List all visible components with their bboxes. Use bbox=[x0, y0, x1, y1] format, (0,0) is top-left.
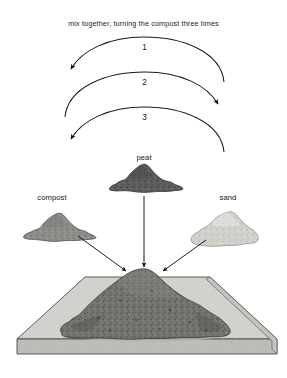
compost-label: compost bbox=[37, 193, 67, 202]
turning-arc-3-number: 3 bbox=[142, 113, 147, 122]
peat-pile: peat bbox=[109, 153, 183, 192]
peat-label: peat bbox=[136, 153, 152, 162]
diagram-canvas: mix together, turning the compost three … bbox=[0, 0, 287, 378]
flow-arrow-compost bbox=[78, 236, 126, 271]
sand-pile: sand bbox=[191, 193, 258, 246]
turning-arc-2-number: 2 bbox=[142, 78, 147, 87]
compost-pile: compost bbox=[24, 193, 96, 241]
turning-arc-3: 3 bbox=[71, 107, 224, 152]
figure-title: mix together, turning the compost three … bbox=[68, 19, 219, 28]
turning-arc-1-number: 1 bbox=[142, 43, 147, 52]
sand-label: sand bbox=[220, 193, 237, 202]
compost-mixing-diagram: mix together, turning the compost three … bbox=[0, 0, 287, 378]
flow-arrow-sand bbox=[163, 240, 206, 271]
turning-arc-1: 1 bbox=[71, 37, 224, 82]
turning-arc-2: 2 bbox=[65, 72, 218, 117]
